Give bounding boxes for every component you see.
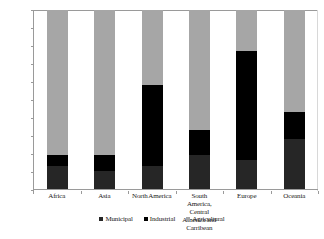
bar-segment-industrial[interactable] (189, 130, 210, 155)
legend-item[interactable]: Municipal (99, 215, 132, 223)
x-axis-category-label-line: Africa (37, 192, 77, 200)
stacked-bar[interactable] (94, 10, 115, 189)
bar-segment-industrial[interactable] (94, 155, 115, 171)
bar-column[interactable] (85, 10, 125, 189)
x-axis-category-label-line: Oceania (274, 192, 314, 200)
stacked-bar[interactable] (47, 10, 68, 189)
x-axis-category-label-line: Asia (84, 192, 124, 200)
x-axis-category-label: North America (132, 192, 172, 200)
x-axis-category-label: Oceania (274, 192, 314, 200)
x-axis-labels: AfricaAsiaNorth AmericaSouth America,Cen… (33, 192, 318, 232)
bar-segment-agricultural[interactable] (47, 10, 68, 155)
bar-segment-industrial[interactable] (284, 112, 305, 139)
bar-segment-municipal[interactable] (94, 171, 115, 189)
stacked-bar[interactable] (189, 10, 210, 189)
legend-item[interactable]: Agricultural (186, 215, 224, 223)
chart-legend: MunicipalIndustrialAgricultural (0, 215, 324, 223)
bar-segment-municipal[interactable] (284, 139, 305, 189)
stacked-bar[interactable] (142, 10, 163, 189)
bar-segment-industrial[interactable] (142, 85, 163, 166)
stacked-bar-chart: 0%10%20%30%40%50%60%70%80%90%100% Africa… (0, 0, 324, 239)
bar-segment-agricultural[interactable] (284, 10, 305, 112)
bar-segment-agricultural[interactable] (189, 10, 210, 130)
bar-segment-agricultural[interactable] (142, 10, 163, 85)
stacked-bar[interactable] (236, 10, 257, 189)
bar-column[interactable] (132, 10, 172, 189)
x-axis-category-label-line: South America, (179, 192, 219, 208)
bar-segment-industrial[interactable] (236, 51, 257, 160)
bar-segment-municipal[interactable] (47, 166, 68, 189)
legend-label: Municipal (105, 215, 132, 223)
bar-segment-industrial[interactable] (47, 155, 68, 166)
bar-segment-municipal[interactable] (189, 155, 210, 189)
bar-segment-municipal[interactable] (142, 166, 163, 189)
legend-label: Industrial (150, 215, 175, 223)
bar-column[interactable] (38, 10, 78, 189)
bar-column[interactable] (274, 10, 314, 189)
legend-swatch-icon (99, 217, 103, 221)
stacked-bar[interactable] (284, 10, 305, 189)
bar-group (34, 10, 318, 189)
bar-column[interactable] (179, 10, 219, 189)
x-axis-tick-mark (318, 191, 319, 194)
x-axis-category-label-line: North America (132, 192, 172, 200)
legend-swatch-icon (144, 217, 148, 221)
bar-column[interactable] (227, 10, 267, 189)
legend-swatch-icon (186, 217, 190, 221)
x-axis-category-label: South America,CentralAmerica andCarribea… (179, 192, 219, 232)
legend-item[interactable]: Industrial (144, 215, 175, 223)
x-axis-category-label: Africa (37, 192, 77, 200)
bar-segment-agricultural[interactable] (94, 10, 115, 155)
x-axis-category-label-line: Europe (227, 192, 267, 200)
bar-segment-municipal[interactable] (236, 160, 257, 189)
bar-segment-agricultural[interactable] (236, 10, 257, 51)
x-axis-category-label-line: Carribean (179, 224, 219, 232)
plot-area: 0%10%20%30%40%50%60%70%80%90%100% (33, 10, 318, 190)
x-axis-category-label: Asia (84, 192, 124, 200)
legend-label: Agricultural (192, 215, 224, 223)
x-axis-category-label: Europe (227, 192, 267, 200)
